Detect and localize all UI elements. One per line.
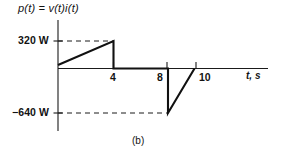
power-waveform-trace bbox=[58, 41, 195, 113]
x-tick-label-10: 10 bbox=[199, 72, 211, 83]
plot-canvas bbox=[0, 0, 282, 157]
x-axis-label: t, s bbox=[246, 71, 260, 81]
power-waveform-figure: p(t) = v(t)i(t) 320 W −640 W 4 8 10 t, s… bbox=[0, 0, 282, 157]
x-tick-label-8: 8 bbox=[157, 72, 163, 83]
y-tick-label-320w: 320 W bbox=[18, 35, 49, 46]
y-tick-label-minus640w: −640 W bbox=[12, 107, 49, 118]
figure-caption: (b) bbox=[132, 136, 144, 146]
chart-title: p(t) = v(t)i(t) bbox=[18, 3, 79, 14]
x-tick-label-4: 4 bbox=[110, 72, 116, 83]
